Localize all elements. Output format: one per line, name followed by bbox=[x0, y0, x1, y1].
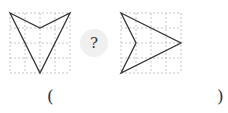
question-mark-bubble: ? bbox=[80, 29, 108, 57]
left-grid bbox=[10, 13, 70, 73]
right-grid bbox=[121, 13, 181, 73]
answer-paren-open: ( bbox=[47, 86, 54, 106]
figure-canvas bbox=[0, 0, 228, 113]
answer-paren-close: ) bbox=[217, 86, 224, 106]
